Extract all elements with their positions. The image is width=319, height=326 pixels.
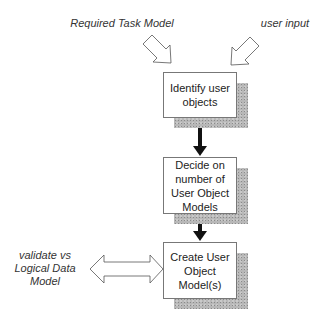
step-1-label: Identify user objects [170,81,230,109]
input-arrow-right-icon [231,37,259,65]
step-3-label: Create User Object Model(s) [168,250,232,292]
validate-label-line-3: Model [10,275,80,288]
input-arrow-left-icon [143,35,171,63]
validate-label: validate vs Logical Data Model [10,249,80,288]
validate-label-line-2: Logical Data [10,262,80,275]
validate-label-line-1: validate vs [10,249,80,262]
step-identify-user-objects: Identify user objects [163,72,237,118]
step-decide-number-of-models: Decide on number of User Object Models [163,157,237,214]
step-create-user-object-models: Create User Object Model(s) [163,242,237,299]
validate-double-arrow-icon [90,255,163,283]
step-2-label: Decide on number of User Object Models [168,158,232,214]
